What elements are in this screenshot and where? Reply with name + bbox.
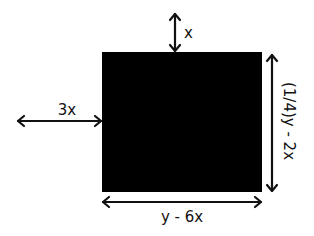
height-arrow xyxy=(267,55,277,191)
diagram-canvas: x 3x (1/4)y - 2x y - 6x xyxy=(0,0,314,236)
left-gap-label: 3x xyxy=(58,101,77,119)
rectangle-dimension-diagram: x 3x (1/4)y - 2x y - 6x xyxy=(0,0,314,236)
height-label: (1/4)y - 2x xyxy=(280,82,298,160)
top-gap-arrow xyxy=(170,14,180,51)
width-arrow xyxy=(103,197,261,207)
black-rectangle xyxy=(102,52,262,192)
top-gap-label: x xyxy=(184,24,193,42)
width-label: y - 6x xyxy=(161,208,203,226)
